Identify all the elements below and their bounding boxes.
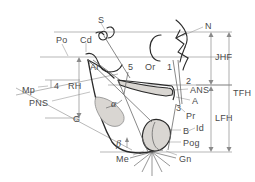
symphysis-shape (142, 119, 170, 151)
label-JHF: JHF (215, 53, 232, 62)
label-Gn: Gn (179, 155, 191, 164)
symphysis-fill (142, 119, 170, 151)
label-Or: Or (145, 63, 155, 72)
label-A: A (192, 97, 198, 106)
gonial-fill (95, 97, 124, 126)
a-leader (176, 97, 190, 100)
label-ANS: ANS (190, 86, 209, 95)
label-PNS: PNS (29, 99, 48, 108)
label-TFH: TFH (233, 89, 251, 98)
label-Pr: Pr (186, 112, 195, 121)
beta-arrow-head (125, 137, 129, 142)
label-B: B (183, 127, 189, 136)
label-Cd: Cd (80, 36, 92, 45)
fan-line-4 (152, 152, 162, 172)
fan-line-2 (142, 152, 152, 172)
menton-fan-lines (130, 152, 176, 176)
label-N: N (205, 22, 212, 31)
label-5: 5 (128, 63, 133, 72)
jhf-arrow-head-top (209, 32, 214, 37)
label-LFH: LFH (215, 114, 233, 123)
label-S: S (98, 16, 104, 25)
mp-leader (38, 86, 48, 87)
label-Ar: Ar (90, 63, 99, 72)
label-Pog: Pog (183, 139, 200, 148)
label-Me: Me (116, 155, 129, 164)
label-Mp: Mp (22, 86, 35, 95)
label-3: 3 (176, 104, 181, 113)
lfh-arrow-head-top (209, 86, 214, 91)
nasion-frontal-outline (176, 20, 188, 70)
ceph-diagram-root: S N Po Cd Ar 5 Or 1 2 ANS A 3 Pr B Id Po… (0, 0, 255, 182)
label-G: G (73, 115, 80, 124)
jhf-arrow-head-bottom (209, 80, 214, 85)
label-1: 1 (167, 63, 172, 72)
label-Id: Id (196, 124, 204, 133)
label-alpha-angle: α (111, 99, 116, 108)
po-leader (62, 44, 68, 56)
rh-arrow-head-top (77, 57, 82, 62)
gonial-region-shape (95, 97, 124, 126)
label-RH: RH (68, 82, 81, 91)
label-Po: Po (56, 36, 67, 45)
lfh-arrow-head-bottom (209, 147, 214, 152)
label-4: 4 (54, 82, 59, 91)
pns-leader (52, 92, 90, 101)
tfh-arrow-head-bottom (227, 147, 232, 152)
gn-leader (166, 151, 177, 155)
label-beta-angle: β (116, 139, 121, 148)
tfh-arrow-head-top (227, 32, 232, 37)
